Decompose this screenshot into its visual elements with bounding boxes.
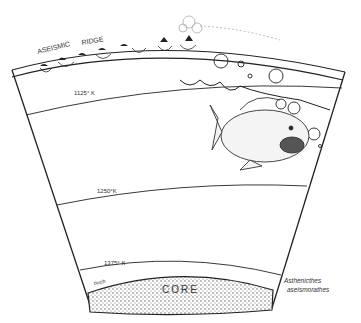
core: [88, 277, 273, 315]
label-aseismic: ASEISMIC: [37, 40, 71, 55]
label-1250k: 1250°K: [97, 188, 117, 194]
bubble-boundary: [180, 80, 330, 110]
earth-cross-section-diagram: ASEISMIC RIDGE 1125° K 1250°K 1375° K ou…: [0, 0, 361, 323]
label-species-1: Asthenicthes: [283, 277, 322, 284]
volcanic-plume: [179, 16, 280, 40]
label-ridge: RIDGE: [81, 35, 104, 46]
label-1125k: 1125° K: [74, 90, 95, 96]
left-wall: [12, 70, 90, 305]
label-ouch: ouch: [93, 278, 106, 286]
label-core: CORE: [162, 284, 199, 295]
label-species-2: aseismorathes: [287, 286, 330, 293]
isotherm-1250: [57, 185, 307, 205]
fish-illustration: [210, 98, 309, 170]
right-wall: [272, 72, 345, 308]
label-1375k: 1375° K: [104, 260, 125, 266]
